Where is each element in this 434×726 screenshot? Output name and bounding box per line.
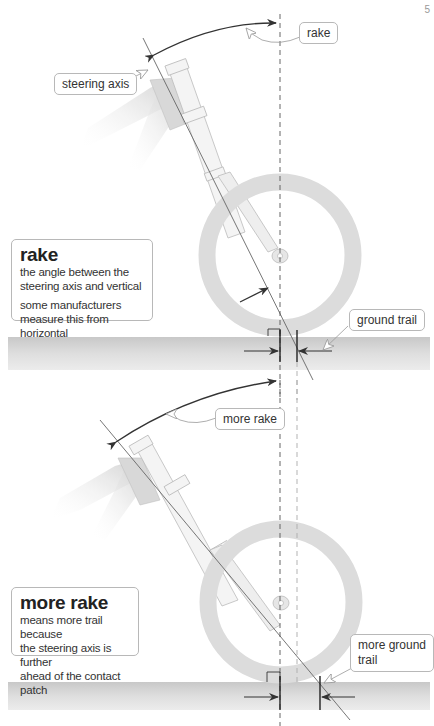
more-rake-info-line: ahead of the contact patch: [20, 669, 130, 697]
steering-axis-label: steering axis: [54, 73, 137, 95]
rake-angle-arc: [154, 23, 276, 55]
more-rake-label: more rake: [215, 408, 285, 430]
more-ground-trail-label: more ground trail: [350, 634, 434, 672]
top-panel: [8, 14, 430, 400]
rake-info-note: some manufacturers: [20, 298, 144, 312]
rake-label: rake: [299, 22, 338, 44]
ground-trail-label: ground trail: [349, 309, 425, 331]
more-rake-info-box: more rake means more trail because the s…: [11, 587, 139, 656]
more-ground-trail-label-line: more ground: [358, 638, 426, 653]
rake-info-line: the angle between the: [20, 265, 144, 279]
bike-frame: [50, 458, 160, 540]
more-rake-info-line: means more trail because: [20, 613, 130, 641]
rake-info-box: rake the angle between the steering axis…: [11, 239, 153, 321]
steering-axis-line: [100, 420, 350, 720]
rake-info-line: steering axis and vertical: [20, 279, 144, 293]
page-number: 5: [424, 4, 430, 15]
steering-axis-line: [143, 38, 313, 380]
more-rake-info-title: more rake: [20, 593, 130, 613]
more-rake-info-line: the steering axis is further: [20, 641, 130, 669]
rake-info-title: rake: [20, 245, 144, 265]
rake-label-text: rake: [307, 26, 330, 40]
ground-trail-label-text: ground trail: [357, 313, 417, 327]
steering-axis-label-text: steering axis: [62, 77, 129, 91]
more-rake-label-text: more rake: [223, 412, 277, 426]
ground-strip: [8, 337, 430, 370]
more-ground-trail-label-line: trail: [358, 653, 426, 668]
rake-info-note: measure this from horizontal: [20, 312, 144, 340]
